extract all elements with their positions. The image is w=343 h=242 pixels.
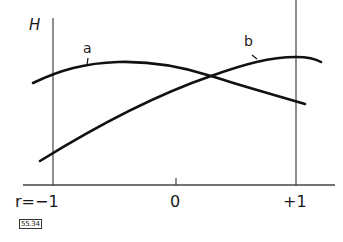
curve-b	[40, 57, 321, 161]
x-tick-label-minus-one: r=−1	[15, 194, 59, 210]
curve-a-label: a	[83, 41, 92, 55]
x-tick-label-plus-one: +1	[283, 194, 307, 210]
x-tick-label-zero: 0	[170, 194, 180, 210]
curve-b-label: b	[244, 34, 253, 48]
y-axis-label: H	[29, 18, 40, 33]
figure-id-badge: 55.34	[19, 219, 42, 229]
curve-b-leader	[252, 55, 257, 59]
curve-a	[33, 62, 305, 104]
